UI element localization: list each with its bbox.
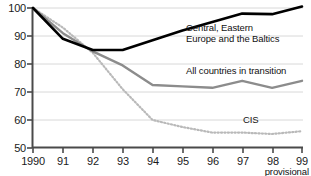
series-label-cis: CIS <box>243 114 259 125</box>
x-tick-label-91: 91 <box>50 155 76 167</box>
y-tick-label-60: 60 <box>0 114 26 126</box>
provisional-note: provisional <box>265 166 309 176</box>
x-tick-label-1990: 1990 <box>15 155 51 167</box>
x-tick-label-94: 94 <box>140 155 166 167</box>
series-label-line1: Central, Eastern <box>186 22 279 33</box>
y-tick-label-90: 90 <box>0 30 26 42</box>
chart-container: 100 90 80 70 60 50 1990 91 92 93 94 95 9… <box>0 0 311 176</box>
y-tick-label-80: 80 <box>0 58 26 70</box>
y-tick-label-50: 50 <box>0 142 26 154</box>
x-tick-label-96: 96 <box>200 155 226 167</box>
series-label-all-countries-in-transition: All countries in transition <box>186 65 286 76</box>
x-tick-label-95: 95 <box>170 155 196 167</box>
series-label-central-eastern-europe-baltics: Central, Eastern Europe and the Baltics <box>186 22 279 44</box>
y-tick-label-70: 70 <box>0 86 26 98</box>
x-axis <box>32 148 303 154</box>
x-tick-label-97: 97 <box>230 155 256 167</box>
series-label-line2: Europe and the Baltics <box>186 33 279 44</box>
x-tick-label-93: 93 <box>110 155 136 167</box>
x-tick-label-92: 92 <box>80 155 106 167</box>
y-axis <box>27 7 33 148</box>
y-tick-label-100: 100 <box>0 2 26 14</box>
